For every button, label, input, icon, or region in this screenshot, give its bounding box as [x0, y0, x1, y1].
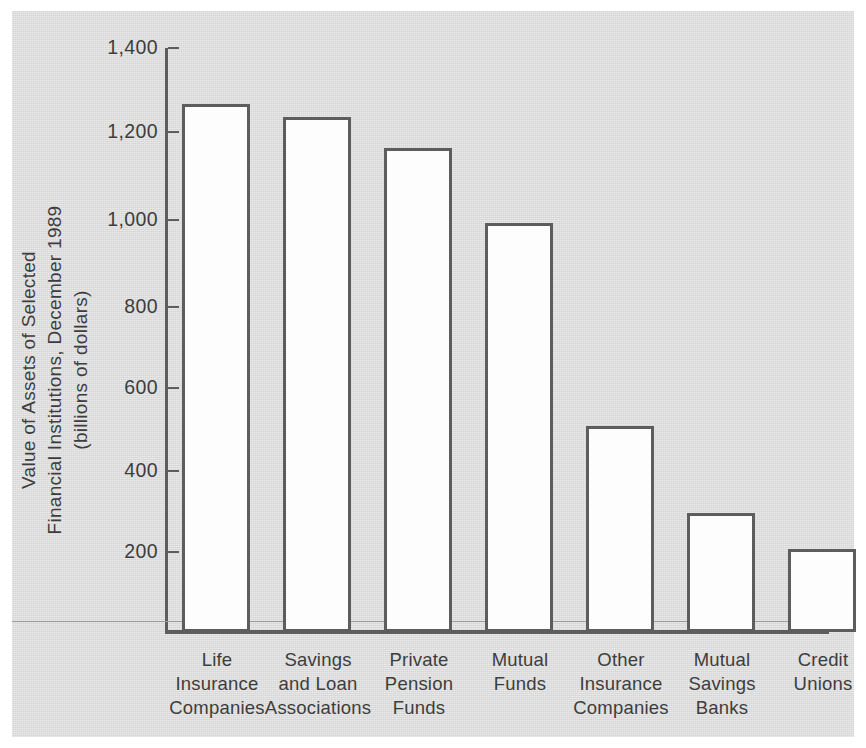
- y-tick-600: [168, 387, 179, 389]
- bar-private-pension-funds: [384, 148, 452, 632]
- y-tick-label-1400: 1,400: [72, 36, 158, 59]
- bar-credit-unions: [788, 549, 856, 632]
- x-axis-baseline: [165, 630, 829, 634]
- y-tick-200: [168, 551, 179, 553]
- y-tick-800: [168, 306, 179, 308]
- y-axis-title-line-2: Financial Institutions, December 1989: [42, 206, 68, 535]
- y-tick-label-800: 800: [72, 295, 158, 318]
- plot-area: Value of Assets of Selected Financial In…: [0, 0, 866, 748]
- y-tick-label-1000: 1,000: [72, 208, 158, 231]
- y-tick-1400: [168, 47, 179, 49]
- y-tick-1000: [168, 219, 179, 221]
- y-tick-label-200: 200: [72, 540, 158, 563]
- y-axis-title-line-3: (billions of dollars): [68, 206, 94, 535]
- bar-mutual-savings-banks: [687, 513, 755, 632]
- y-tick-label-400: 400: [72, 459, 158, 482]
- bar-mutual-funds: [485, 223, 553, 632]
- bar-other-insurance-companies: [586, 426, 654, 632]
- bar-savings-and-loan-associations: [283, 117, 351, 632]
- y-axis-title: Value of Assets of Selected Financial In…: [15, 90, 95, 650]
- y-tick-label-1200: 1,200: [72, 120, 158, 143]
- x-label-credit-unions: Credit Unions: [761, 648, 866, 696]
- y-axis-line: [165, 48, 168, 634]
- y-tick-400: [168, 470, 179, 472]
- y-tick-1200: [168, 131, 179, 133]
- y-tick-label-600: 600: [72, 376, 158, 399]
- bar-life-insurance-companies: [182, 104, 250, 632]
- y-axis-title-line-1: Value of Assets of Selected: [16, 206, 42, 535]
- chart-figure: Value of Assets of Selected Financial In…: [0, 0, 866, 748]
